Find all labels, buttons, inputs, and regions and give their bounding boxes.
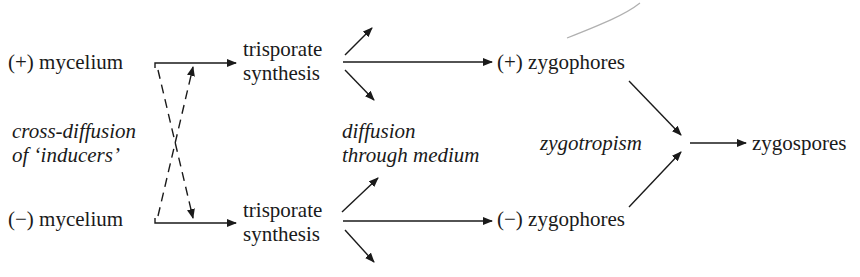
- node-minus-trisporate-line1: trisporate: [243, 198, 322, 222]
- node-plus-zygophores: (+) zygophores: [497, 50, 625, 74]
- node-minus-trisporate-line2: synthesis: [243, 222, 320, 246]
- node-minus-mycelium: (−) mycelium: [8, 207, 123, 231]
- edge-minus-diffuse-up: [342, 178, 378, 212]
- node-plus-mycelium: (+) mycelium: [8, 50, 123, 74]
- edge-minus-mycelium-trisporate: [155, 218, 236, 223]
- annotation-zygotropism: zygotropism: [540, 131, 642, 155]
- edge-minus-diffuse-down: [345, 230, 374, 262]
- edge-plus-diffuse-up: [345, 28, 372, 55]
- edge-plus-zygophores-junction: [629, 81, 681, 135]
- annotation-diffusion-line1: diffusion: [342, 119, 416, 143]
- annotation-cross-diffusion-line1: cross-diffusion: [12, 119, 136, 143]
- annotation-diffusion-line2: through medium: [342, 143, 479, 167]
- edge-plus-diffuse-down: [345, 70, 374, 100]
- edge-plus-mycelium-trisporate: [155, 63, 236, 68]
- node-minus-zygophores: (−) zygophores: [497, 207, 625, 231]
- node-plus-trisporate-line1: trisporate: [243, 37, 322, 61]
- node-zygospores: zygospores: [752, 131, 846, 155]
- node-plus-trisporate-line2: synthesis: [243, 61, 320, 85]
- pencil-mark: [567, 3, 640, 38]
- annotation-cross-diffusion-line2: of ‘inducers’: [12, 143, 120, 167]
- edge-minus-zygophores-junction: [629, 152, 681, 207]
